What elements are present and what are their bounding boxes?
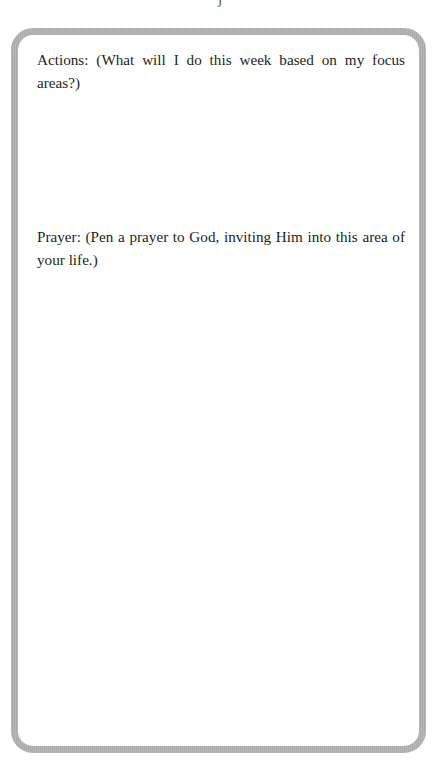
journal-frame: Actions: (What will I do this week based… — [11, 28, 426, 753]
actions-writing-area[interactable] — [37, 75, 405, 220]
prayer-writing-area[interactable] — [37, 275, 405, 735]
prayer-prompt: Prayer: (Pen a prayer to God, inviting H… — [37, 225, 405, 271]
page-top-mark: j — [214, 0, 226, 6]
